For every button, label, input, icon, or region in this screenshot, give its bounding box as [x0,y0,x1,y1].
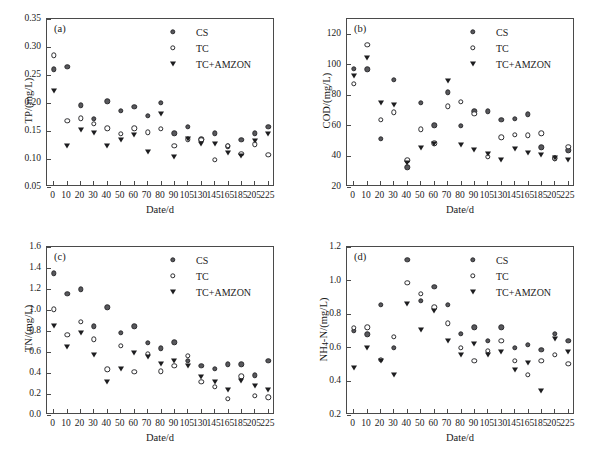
data-point-tc-amzon [391,102,397,107]
data-point-cs [266,358,271,363]
y-tick-mark [47,394,51,395]
y-tick-mark [47,289,51,290]
x-tick-mark [80,181,81,185]
data-point-cs [391,77,396,82]
y-tick-mark [47,187,51,188]
x-tick-label: 165 [220,190,234,200]
y-tick-mark [47,415,51,416]
data-point-tc [266,394,271,399]
legend-item-tc: TC [466,268,551,284]
x-tick-label: 50 [115,190,125,200]
legend-item-tc-amzon: TC+AMZON [466,56,551,72]
y-tick-label: 0.05 [24,181,41,191]
x-tick-mark [420,181,421,185]
data-point-tc [172,363,177,368]
y-tick-mark [47,103,51,104]
data-point-tc [405,280,410,285]
data-point-tc-amzon [498,350,504,355]
legend-label: CS [496,255,508,266]
legend-item-tc-amzon: TC+AMZON [166,56,251,72]
x-tick-mark [174,181,175,185]
x-tick-mark [474,181,475,185]
legend-item-tc: TC [166,268,251,284]
data-point-tc [566,361,571,366]
x-tick-mark [487,181,488,185]
x-tick-mark [214,409,215,413]
data-point-cs [525,112,530,117]
data-point-tc [364,324,369,329]
legend-glyph-open-circle [170,45,175,50]
data-point-tc [145,129,150,134]
legend-glyph-filled-circle [470,257,475,262]
y-tick-mark [47,268,51,269]
x-tick-mark [353,409,354,413]
y-axis-label: TN/(mg/L) [23,289,34,369]
y-tick-label: 120 [327,28,341,38]
y-tick-label: 60 [332,120,342,130]
data-point-tc-amzon [512,147,518,152]
x-tick-mark [120,181,121,185]
data-point-cs [418,100,423,105]
panel-tag: (d) [354,251,366,262]
x-tick-mark [147,409,148,413]
x-tick-mark [541,181,542,185]
x-tick-mark [93,409,94,413]
x-tick-label: 30 [88,418,98,428]
x-tick-label: 205 [547,418,561,428]
legend-item-tc: TC [466,40,551,56]
x-tick-mark [367,181,368,185]
data-point-tc-amzon [252,384,258,389]
x-tick-mark [80,409,81,413]
x-tick-mark [554,181,555,185]
data-point-cs [172,340,177,345]
x-tick-mark [501,409,502,413]
x-tick-label: 80 [155,418,165,428]
x-tick-mark [161,409,162,413]
x-tick-label: 205 [547,190,561,200]
data-point-tc-amzon [252,138,258,143]
x-axis-label: Date/d [46,204,274,215]
chart-panel-a: 0.050.100.150.200.250.300.35010203040506… [0,0,300,228]
data-point-tc [199,379,204,384]
data-point-tc [458,99,463,104]
x-tick-mark [201,409,202,413]
y-tick-mark [47,47,51,48]
data-point-tc-amzon [431,141,437,146]
x-tick-label: 205 [247,418,261,428]
data-point-tc-amzon [91,353,97,358]
legend-glyph-open-circle [170,273,175,278]
x-tick-label: 130 [193,418,207,428]
data-point-cs [78,103,83,108]
x-tick-label: 130 [493,190,507,200]
y-tick-mark [347,187,351,188]
data-point-tc-amzon [364,55,370,60]
data-point-tc-amzon [212,142,218,147]
y-axis-label: TP/(mg/L) [23,61,34,141]
data-point-tc-amzon [431,308,437,313]
chart-panel-c: 0.00.20.40.60.81.01.21.41.60102030405060… [0,228,300,456]
x-tick-label: 165 [220,418,234,428]
x-tick-mark [528,181,529,185]
legend-marker-filled-triangle-down [166,285,180,299]
x-tick-mark [67,409,68,413]
x-tick-mark [528,409,529,413]
data-point-tc [512,358,517,363]
data-point-tc [91,121,96,126]
data-point-cs [105,99,110,104]
x-tick-label: 40 [402,190,412,200]
data-point-cs [552,331,557,336]
data-point-tc [105,366,110,371]
data-point-tc-amzon [485,152,491,157]
data-point-cs [485,338,490,343]
data-point-tc-amzon [538,153,544,158]
data-point-tc-amzon [64,143,70,148]
data-point-cs [266,124,271,129]
data-point-tc-amzon [78,331,84,336]
x-tick-mark [161,181,162,185]
data-point-cs [499,324,504,329]
y-tick-mark [47,131,51,132]
data-point-tc-amzon [552,337,558,342]
legend-label: TC+AMZON [496,59,551,70]
data-point-tc [64,332,69,337]
x-tick-mark [228,409,229,413]
